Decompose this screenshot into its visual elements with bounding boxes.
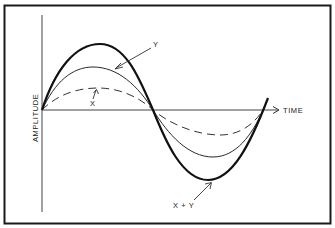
curve-sum-label: X + Y — [173, 201, 194, 210]
curve-x-label: X — [90, 99, 96, 108]
curve-y-pointer — [116, 48, 151, 68]
curve-y — [42, 67, 263, 157]
y-axis-label: AMPLITUDE — [31, 94, 40, 142]
curve-y-label: Y — [153, 40, 159, 49]
x-axis-label: TIME — [283, 106, 303, 115]
figure-frame — [5, 6, 331, 224]
waveform-diagram: TIME AMPLITUDE Y X X + Y — [0, 0, 335, 228]
curve-x-arrowhead-icon — [94, 90, 99, 95]
curve-x-plus-y — [42, 44, 268, 180]
curve-sum-pointer — [194, 183, 211, 200]
